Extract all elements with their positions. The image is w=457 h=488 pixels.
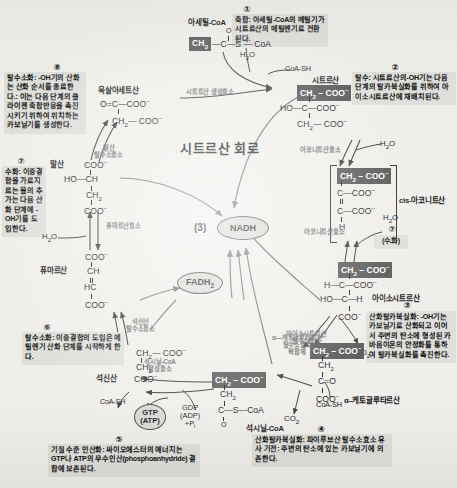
enzyme-malate-dehydrogenase: 말산 탈수소효소 — [94, 144, 123, 158]
atp-label: (ATP) — [140, 417, 160, 425]
coa-sh-top: CoA-SH — [285, 64, 311, 73]
akg-bond-3 — [322, 388, 323, 393]
note-4-text: 산화탈카복실화: 파이루브산 탈수소효소 유사 기전: 주변의 탄소에 있는 카… — [252, 434, 392, 467]
acetyl-coa-formula: CH3—C—S — CoA — [189, 37, 271, 51]
molecule-label-oxaloacetate: 옥살아세트산 — [98, 84, 139, 95]
malate-bond-3 — [91, 200, 92, 205]
molecule-label-alpha-ketoglutarate: α–케토글루타르산 — [344, 394, 400, 405]
isocitrate-bond-3 — [349, 306, 350, 311]
molecule-label-succinate: 석신산 — [96, 372, 116, 383]
fumarate-line4: COO– — [85, 298, 108, 310]
aconitate-bond-2a — [340, 199, 341, 204]
acetyl-coa-double-bond — [228, 36, 229, 41]
isocitrate-line1: CH2 – COO– — [338, 262, 392, 278]
fumarate-line1: COO– — [85, 250, 108, 262]
cis-aconitate-line3: C—COO– — [337, 204, 375, 216]
molecule-label-isocitrate: 아이소시트르산 — [372, 292, 420, 303]
fumarate-bond-1 — [91, 262, 92, 267]
succinate-line1: CH2— COO– — [136, 346, 186, 360]
note-8-text: 탈수소화: -OH기의 산화는 산화 순서를 종료한다.: 이는 다음 단계의 … — [4, 72, 86, 134]
note-2-number: ② — [388, 62, 402, 72]
fumarate-bond-3 — [91, 294, 92, 299]
h2o-fumarate: H2O — [42, 232, 57, 243]
coa-sh-mid: CoA-SH — [316, 400, 342, 409]
note-7-text: 수화: 이중결합을 가로지르는 물의 추가는 다음 산화 단계에 -OH기를 도… — [2, 166, 46, 237]
enzyme-citrate-synthase: 시트르산 생성효소 — [186, 88, 234, 96]
nadh-label: NADH — [230, 223, 256, 233]
succinate-line3: COO– — [134, 372, 157, 384]
enzyme-aconitase-bottom: 아코니트산효소 — [304, 228, 345, 236]
molecule-label-cis-aconitate: cis-아코니트산 — [399, 194, 445, 205]
nadh-count: (3) — [194, 222, 206, 233]
cis-aconitate-line1: CH2 – COO– — [337, 168, 391, 184]
akg-line2: CH2 — [318, 360, 334, 372]
note-7-number: ⑦ — [14, 156, 28, 166]
note-8-number: ⑧ — [50, 62, 64, 72]
succinyl-bond-2 — [224, 401, 225, 406]
gtp-atp-node: GTP (ATP) — [134, 404, 166, 430]
malate-bond-1 — [90, 170, 91, 175]
fadh2-label: FADH2 — [186, 277, 214, 289]
citrate-line2: HO—C—COO– — [280, 101, 339, 113]
succinate-bond-1 — [141, 358, 142, 363]
molecule-label-malate: 말산 — [50, 158, 64, 169]
nadh-node: NADH — [217, 216, 269, 240]
succinyl-coa-line1: CH2 – COO– — [212, 372, 266, 388]
malate-line3: CH2 — [86, 190, 102, 202]
citrate-bond-2 — [309, 113, 310, 118]
h2o-citrate: H2O — [380, 139, 395, 150]
h2o-acetyl: H2O — [240, 50, 255, 61]
citrate-line1: CH2 – COO– — [297, 85, 351, 101]
oxaloacetate-line2: CH2— COO– — [112, 114, 162, 128]
gdp-adp-pi-node: GDP (ADP) +Pi — [180, 404, 200, 430]
malate-line4: COO– — [84, 204, 107, 216]
page-title: 시트르산 회로 — [180, 138, 259, 157]
succinyl-bond-3 — [223, 417, 224, 421]
malate-line2: HO—CH — [64, 174, 98, 184]
note-4-number: ④ — [314, 424, 328, 434]
enzyme-aconitase-top: 아코니트산효소 — [300, 146, 341, 154]
aconitate-bond-3 — [341, 217, 342, 222]
note-1-number: ① — [240, 4, 254, 14]
acetyl-coa-methyl-highlight: CH3 — [189, 37, 211, 51]
note-5-number: ⑤ — [112, 434, 126, 444]
molecule-label-citrate: 시트르산 — [312, 74, 339, 85]
note-6-text: 탈수소화: 이중결합의 도입은 메틸렌기 산화 단계를 시작하게 한다. — [22, 332, 124, 365]
succinyl-coa-line3: C—S—CoA — [218, 405, 264, 415]
fadh2-node: FADH2 — [177, 272, 223, 294]
fumarate-line3: HC — [84, 282, 96, 292]
acetyl-coa-carbonyl-o: O — [226, 27, 231, 34]
note-3-text: 산화탈카복실화: -OH기는 카보닐기로 산화되고 이어서 주변의 탄소에 형성… — [366, 311, 456, 363]
malate-line1: COO– — [84, 158, 107, 170]
akg-bond-2 — [322, 372, 323, 377]
succinyl-coa-line2: CH2 — [220, 389, 236, 401]
note-5-text: 기질 수준 인산화: 싸이오에스터의 에너지는 GTP나 ATP의 무수인산(p… — [48, 444, 200, 477]
molecule-label-acetyl-coa: 아세틸-CoA — [188, 16, 226, 27]
citrate-line3: CH2— COO– — [297, 117, 347, 131]
malate-bond-2 — [91, 186, 92, 191]
fumarate-bond-2b — [92, 278, 93, 283]
fumarate-bond-2a — [90, 278, 91, 283]
akg-bond-1 — [322, 356, 323, 361]
aconitate-bond-1 — [341, 181, 342, 186]
enzyme-fumarase: 퓨마르산효소 — [106, 222, 141, 230]
h2o-aconitate: H2O — [383, 213, 398, 224]
cis-aconitate-line2: C—COO– — [337, 186, 375, 198]
enzyme-akg-dehydrogenase-complex: α—케토글루타르산 탈수소효소 복합체 — [272, 334, 322, 356]
acetyl-coa-thioester: —C—S — CoA — [212, 39, 271, 49]
note-2-text: 탈수: 시트르산의-OH기는 다음 단계의 탈카복실화를 위하여 아이소시트르산… — [352, 72, 456, 105]
isocitrate-line3: HO—C—H — [320, 294, 363, 304]
enzyme-succinate-dehydrogenase: 석신산 탈수소효소 — [126, 318, 155, 332]
molecule-label-succinyl-coa: 석시닐-CoA — [246, 422, 284, 433]
pi-label: +Pi — [180, 420, 200, 430]
succinyl-coa-line4: O — [221, 421, 226, 428]
aconitate-bond-2b — [342, 199, 343, 204]
note-6-number: ⑥ — [40, 322, 54, 332]
isocitrate-bond-1 — [349, 274, 350, 279]
isocitrate-bond-2 — [349, 290, 350, 295]
akg-line3: C=O — [318, 376, 336, 386]
co2-akg: CO2 — [284, 414, 299, 425]
fumarate-line2: CH — [87, 266, 99, 276]
isocitrate-line2: H—C—COO– — [324, 278, 377, 290]
succinyl-bond-1 — [224, 385, 225, 390]
